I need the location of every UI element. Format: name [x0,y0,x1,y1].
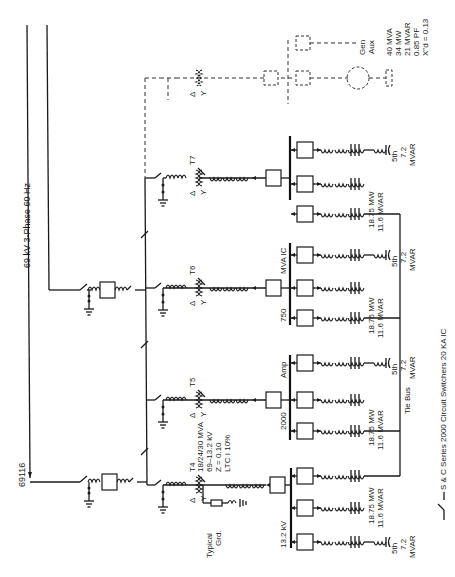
svg-text:7.2: 7.2 [399,359,408,371]
69kv-line-b [47,25,49,290]
incoming-breaker-1 [30,474,147,507]
svg-text:T7: T7 [188,155,197,165]
typical-grd-label: Typical [205,533,214,558]
svg-text:5th: 5th [390,364,399,375]
incoming-breaker-2 [49,282,145,315]
svg-text:18.75 MW: 18.75 MW [367,487,376,524]
switcher-legend-text: S & C Series 2000 Circuit Switchers 20 K… [439,328,448,490]
svg-text:34 MW: 34 MW [394,30,403,56]
tie-bus-label: Tie Bus [403,387,412,414]
svg-text:Δ: Δ [188,190,197,196]
svg-text:MVAR: MVAR [408,535,417,558]
transformer-t6: T6 Δ Y [145,265,290,316]
svg-text:21 MVAR: 21 MVAR [403,22,412,56]
one-line-diagram: 69 kV 3-Phase 60 Hz 69116 [0,0,455,577]
svg-text:11.6 MVAR: 11.6 MVAR [376,192,385,232]
svg-text:Aux: Aux [367,40,376,54]
bus-ic-value: 750 [279,308,288,322]
transformer-t5: T5 Δ Y [146,377,290,428]
future-generator-section: Δ Y Gen Aux 40 MVA 34 MW 21 MVAR 0.85 PF… [160,18,430,104]
svg-text:18.75 MW: 18.75 MW [367,191,376,228]
t4-ltc: LTC ì 10% [223,435,232,472]
capacitor-labels: 5th 7.2 MVAR 5th 7.2 MVAR 5th 7.2 MVAR 5… [390,143,417,558]
svg-text:5th: 5th [390,256,399,267]
svg-text:T6: T6 [188,265,197,275]
svg-text:11.6 MVAR: 11.6 MVAR [376,410,385,450]
svg-text:Y: Y [199,90,208,96]
svg-text:MVAR: MVAR [408,248,417,271]
source-label: 69116 [17,463,27,487]
svg-text:Δ: Δ [188,412,197,418]
svg-text:Δ: Δ [188,300,197,306]
feeders [291,142,364,550]
breaker-box [102,474,117,490]
svg-text:Y: Y [199,495,208,501]
svg-text:5th: 5th [390,151,399,162]
svg-text:Δ: Δ [188,497,197,503]
system-title: 69 kV 3-Phase 60 Hz [22,182,32,268]
typical-grd-label-2: Grd. [214,530,223,546]
svg-text:Y: Y [199,299,208,305]
grounding-resistor-icon [211,500,222,506]
bus-rating-amps: 2000 [279,412,288,430]
breaker-box [100,282,115,298]
svg-text:40 MVA: 40 MVA [385,27,394,56]
svg-text:Δ: Δ [188,91,197,97]
svg-text:T5: T5 [188,377,197,387]
t4-impedance: Z = 0.10 [214,442,223,472]
svg-text:7.2: 7.2 [399,538,408,550]
bus-voltage-label: 13.2 kV [279,520,288,548]
svg-text:11.6 MVAR: 11.6 MVAR [376,488,385,528]
svg-text:Gen: Gen [358,40,367,55]
svg-text:11.6 MVAR: 11.6 MVAR [376,298,385,338]
bus-rating-unit: Amp [279,361,288,378]
svg-text:0.85 PF: 0.85 PF [412,28,421,56]
generator-icon [347,67,369,89]
svg-text:Y: Y [199,411,208,417]
bus-ic-unit: MVA IC [279,247,288,274]
svg-text:7.2: 7.2 [399,146,408,158]
svg-text:18.75 MW: 18.75 MW [367,409,376,446]
69kv-distribution-bus [145,178,147,485]
13kv-buses [290,136,291,548]
svg-text:MVAR: MVAR [408,143,417,166]
transformer-t4: T4 Δ Y 18/24/30 MVA 69–13.2 kV Z = 0.10 … [147,421,290,558]
svg-text:5th: 5th [390,543,399,554]
svg-text:Y: Y [199,189,208,195]
source-arrow-icon [28,472,32,478]
t4-voltage: 69–13.2 kV [205,431,214,472]
svg-text:MVAR: MVAR [408,356,417,379]
t4-rating: 18/24/30 MVA [196,421,205,472]
load-labels: 18.75 MW 11.6 MVAR 18.75 MW 11.6 MVAR 18… [367,191,385,528]
svg-text:7.2: 7.2 [399,251,408,263]
legend: S & C Series 2000 Circuit Switchers 20 K… [438,328,448,520]
transformer-t7: T7 Δ Y [145,155,290,206]
svg-text:X″d = 0.13: X″d = 0.13 [421,18,430,56]
svg-text:18.75 MW: 18.75 MW [367,297,376,334]
